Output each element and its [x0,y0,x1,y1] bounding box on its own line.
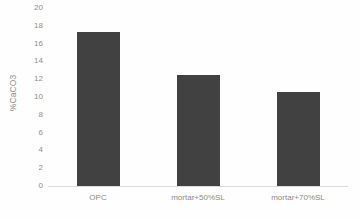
x-tick-label: mortar+70%SL [248,193,348,202]
bar-chart: %CaCO3 20181614121086420 OPCmortar+50%SL… [0,0,361,219]
bar [177,75,220,186]
x-tick-label: OPC [48,193,148,202]
bar-slot [248,8,348,186]
x-axis-line [48,186,348,187]
y-tick-label: 2 [39,164,43,172]
y-tick-label: 10 [34,93,43,101]
y-axis-title-text: %CaCO3 [8,75,18,112]
bar-slot [148,8,248,186]
y-tick-label: 12 [34,75,43,83]
y-tick-label: 8 [39,111,43,119]
y-tick-label: 4 [39,146,43,154]
y-tick-label: 16 [34,40,43,48]
x-axis-tick-labels: OPCmortar+50%SLmortar+70%SL [48,190,348,212]
x-tick-label: mortar+50%SL [148,193,248,202]
y-tick-label: 14 [34,57,43,65]
bar [77,32,120,186]
bar [277,92,320,186]
y-tick-label: 20 [34,4,43,12]
plot-area [48,8,348,186]
y-tick-label: 18 [34,22,43,30]
bar-slot [48,8,148,186]
y-tick-label: 0 [39,182,43,190]
y-axis-tick-labels: 20181614121086420 [22,0,46,219]
y-tick-label: 6 [39,129,43,137]
